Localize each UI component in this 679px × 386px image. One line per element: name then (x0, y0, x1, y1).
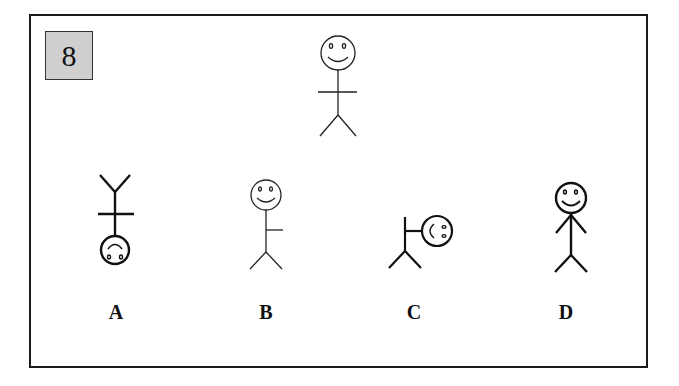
question-number-box: 8 (45, 31, 93, 80)
option-b-label[interactable]: B (259, 301, 272, 324)
option-d-stick-figure-icon[interactable] (545, 175, 605, 275)
option-c-stick-figure-icon[interactable] (380, 205, 470, 275)
option-b-stick-figure-icon[interactable] (240, 175, 290, 275)
question-number: 8 (62, 39, 77, 73)
option-a-label[interactable]: A (109, 301, 123, 324)
option-d-label[interactable]: D (559, 301, 573, 324)
option-c-label[interactable]: C (407, 301, 421, 324)
stimulus-stick-figure-icon (300, 30, 380, 140)
option-a-stick-figure-icon[interactable] (85, 170, 145, 270)
